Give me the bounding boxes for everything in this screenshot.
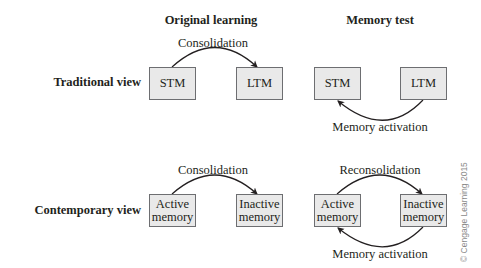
reconsolidation-label: Reconsolidation <box>339 163 420 178</box>
box-line2: memory <box>403 211 445 224</box>
stm-box-memory-test: STM <box>314 67 361 100</box>
memory-activation-arrow-contemporary <box>338 227 423 247</box>
active-memory-box-memory-test: Active memory <box>314 194 361 227</box>
memory-activation-label-traditional: Memory activation <box>332 120 427 135</box>
row-label-traditional-view: Traditional view <box>0 75 141 90</box>
row-label-contemporary-view: Contemporary view <box>0 203 141 218</box>
stm-box-label: STM <box>160 77 186 90</box>
ltm-box-memory-test: LTM <box>400 67 447 100</box>
box-line2: memory <box>317 211 359 224</box>
stm-box-original-learning: STM <box>149 67 196 100</box>
consolidation-label-contemporary: Consolidation <box>178 163 248 178</box>
memory-activation-label-contemporary: Memory activation <box>332 247 427 262</box>
box-line2: memory <box>239 211 281 224</box>
box-line1: Inactive <box>239 198 281 211</box>
stm-box-label: STM <box>325 77 351 90</box>
box-line1: Active <box>317 198 359 211</box>
memory-activation-arrow-traditional <box>338 100 423 120</box>
copyright-notice: © Cengage Learning 2015 <box>459 162 469 262</box>
ltm-box-label: LTM <box>411 77 436 90</box>
box-line1: Active <box>152 198 194 211</box>
box-line2: memory <box>152 211 194 224</box>
active-memory-box-original-learning: Active memory <box>149 194 196 227</box>
ltm-box-original-learning: LTM <box>236 67 283 100</box>
inactive-memory-box-original-learning: Inactive memory <box>236 194 283 227</box>
consolidation-label-traditional: Consolidation <box>178 36 248 51</box>
inactive-memory-box-memory-test: Inactive memory <box>400 194 447 227</box>
box-line1: Inactive <box>403 198 445 211</box>
ltm-box-label: LTM <box>247 77 272 90</box>
